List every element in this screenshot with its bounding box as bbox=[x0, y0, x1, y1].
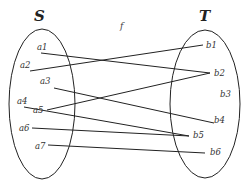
codomain-element-b6: b6 bbox=[210, 147, 221, 157]
codomain-element-b4: b4 bbox=[214, 115, 225, 125]
edge-a7-to-b6 bbox=[48, 145, 205, 153]
domain-element-a5: a5 bbox=[33, 105, 43, 115]
domain-element-labels: a1a2a3a4a5a6a7 bbox=[17, 42, 50, 151]
diagram-canvas: S T f a1a2a3a4a5a6a7 b1b2b3b4b5b6 bbox=[0, 0, 246, 186]
domain-element-a1: a1 bbox=[37, 42, 47, 52]
codomain-element-b1: b1 bbox=[206, 40, 217, 50]
function-mapping-diagram: S T f a1a2a3a4a5a6a7 b1b2b3b4b5b6 bbox=[0, 0, 246, 186]
edge-a1-to-b2 bbox=[41, 53, 210, 73]
codomain-set-ellipse bbox=[170, 30, 240, 178]
edge-a3-to-b4 bbox=[54, 88, 214, 123]
codomain-element-b3: b3 bbox=[220, 89, 231, 99]
domain-element-a3: a3 bbox=[40, 76, 50, 86]
codomain-element-b2: b2 bbox=[214, 68, 225, 78]
codomain-element-labels: b1b2b3b4b5b6 bbox=[193, 40, 231, 157]
mapping-label: f bbox=[119, 21, 125, 31]
codomain-set-title: T bbox=[199, 7, 212, 25]
domain-set-title: S bbox=[34, 7, 45, 25]
mapping-edges bbox=[24, 45, 214, 153]
domain-element-a4: a4 bbox=[17, 96, 27, 106]
codomain-element-b5: b5 bbox=[193, 130, 204, 140]
domain-element-a6: a6 bbox=[19, 123, 30, 133]
domain-element-a2: a2 bbox=[20, 60, 30, 70]
domain-element-a7: a7 bbox=[35, 141, 46, 151]
